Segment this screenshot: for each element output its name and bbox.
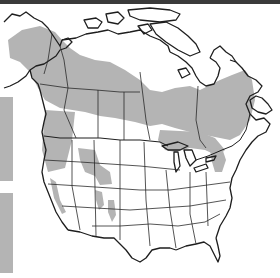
lake-huron	[184, 150, 196, 166]
range-sierra	[50, 178, 66, 214]
range-area	[8, 26, 255, 222]
range-colorado	[108, 200, 116, 222]
lake-michigan	[174, 152, 180, 172]
hudson-bay	[170, 52, 220, 86]
island-southampton	[178, 68, 190, 78]
island-victoria	[84, 18, 102, 28]
range-pacific-northwest	[42, 110, 75, 172]
range-map	[0, 0, 280, 278]
lake-erie	[194, 164, 208, 172]
us-south-row	[62, 200, 226, 210]
mexico-border	[68, 230, 176, 262]
us-col-5	[166, 170, 176, 248]
range-rockies-south	[95, 190, 104, 210]
arctic-coast	[62, 30, 170, 52]
us-col-6	[190, 172, 196, 244]
us-mid-row	[48, 182, 230, 190]
labrador	[210, 46, 236, 62]
island-ellesmere	[128, 8, 180, 22]
us-col-1	[72, 140, 80, 230]
gulf-coast	[176, 238, 220, 262]
island-banks	[106, 12, 124, 24]
us-col-7	[206, 172, 208, 226]
us-col-4	[144, 142, 150, 246]
